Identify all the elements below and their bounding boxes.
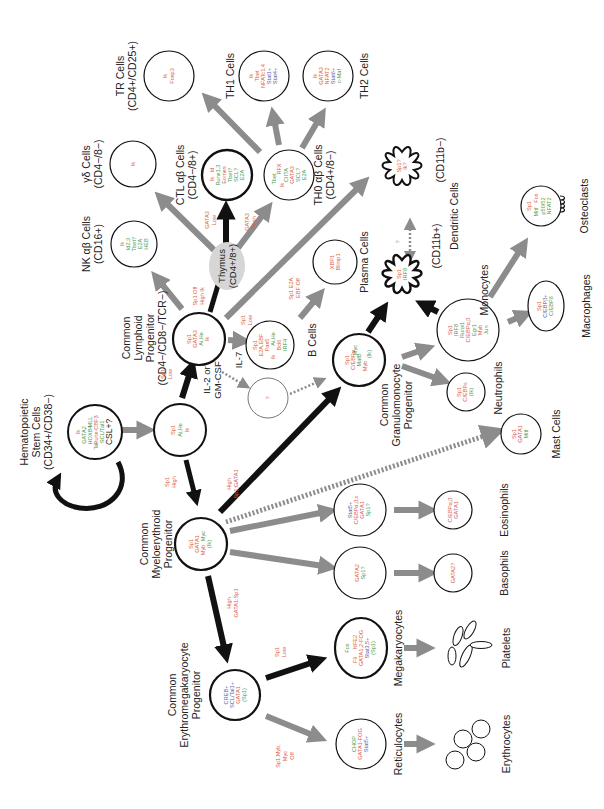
svg-text:Foxp3: Foxp3	[169, 68, 175, 84]
svg-text:(CD16+): (CD16+)	[92, 224, 104, 264]
arrow-cgmp-neutro	[402, 366, 444, 381]
svg-text:GATA1:Sp1: GATA1:Sp1	[233, 588, 239, 617]
label-th0: TH0 αβ Cells (CD4+/8−)	[312, 144, 336, 205]
svg-text:(Sp1): (Sp1)	[241, 688, 247, 702]
cell-neutrophils: Sp1 C/EBPε (Ik)	[447, 373, 485, 411]
cell-megakaryocytes: Fos Fli NFE2 GATA1,2-FOG Stat3,5+ (Sp1)	[335, 618, 387, 678]
cell-unknown: ?	[248, 378, 288, 418]
cond-spi-myb-off: Sp1,Myb, Myc Off	[275, 744, 295, 768]
svg-text:High: High	[251, 216, 257, 228]
svg-text:TR Cells: TR Cells	[114, 56, 126, 96]
svg-text:Megakaryocytes: Megakaryocytes	[392, 610, 404, 686]
svg-text:Plasma Cells: Plasma Cells	[358, 231, 370, 292]
erythrocyte-shapes	[446, 720, 490, 769]
cell-reticulocytes: CHOP GATA1-FOG Stat5+	[336, 719, 386, 769]
cell-eosinophils: C/EBPα,β GATA1	[434, 491, 472, 529]
thymus: Thymus (CD4+/8+)	[209, 242, 245, 290]
svg-text:Myc: Myc	[200, 531, 206, 541]
svg-text:Dendritic Cells: Dendritic Cells	[448, 182, 460, 250]
cell-dc-cd11b-pos: Sp1 IRF8	[383, 255, 422, 293]
cell-osteoclasts: Sp1 Mitf Fos p50/52 NFAT2	[521, 186, 565, 226]
svg-text:Ik: Ik	[279, 183, 285, 188]
svg-text:Lymphoid: Lymphoid	[132, 315, 144, 360]
cell-cmep: Sp1 GATA1 Myb Myc (Ik)	[175, 518, 227, 570]
arrow-mpp-clp	[182, 366, 192, 398]
svg-text:(CD11b−): (CD11b−)	[434, 137, 446, 182]
svg-text:Sp1: Sp1	[170, 425, 176, 435]
cell-th1: Ik Tbet NFATc1,4 Stat1+ Stat4+	[239, 51, 289, 101]
svg-text:Myc: Myc	[352, 345, 358, 355]
cell-clp: Sp1 GATA3 Ai,He Ik	[173, 313, 225, 365]
dc-link-question: ?	[395, 240, 401, 243]
label-platelets: Platelets	[500, 628, 512, 668]
label-eosinophils: Eosinophils	[498, 483, 510, 537]
platelets-shapes	[448, 619, 492, 668]
svg-text:(CD4+/CD25+): (CD4+/CD25+)	[126, 41, 138, 111]
svg-text:NK αβ Cells: NK αβ Cells	[80, 216, 92, 272]
svg-text:Blimp1: Blimp1	[335, 253, 341, 270]
arrow-cgmp-mono	[402, 348, 428, 357]
svg-text:(Ik): (Ik)	[468, 388, 474, 396]
cell-ctl: Ik Id Runx1,3 Eomes Tbet? SCL? E2A	[202, 150, 252, 200]
cytokine-il7: IL-7	[233, 352, 244, 368]
arrow-clp-bcell	[228, 340, 244, 341]
svg-text:Erythrocytes: Erythrocytes	[500, 715, 512, 773]
svg-text:Stem Cells: Stem Cells	[30, 407, 42, 458]
svg-text:Reticulocytes: Reticulocytes	[392, 713, 404, 775]
label-dc-cd11b-pos: (CD11b+)	[430, 223, 442, 268]
label-hsc: Hematopoietic Stem Cells (CD34+/CD38−)	[18, 394, 54, 470]
svg-text:HEB: HEB	[143, 238, 149, 250]
label-dc-cd11b-neg: (CD11b−)	[434, 137, 446, 182]
svg-text:Neutrophils: Neutrophils	[492, 361, 504, 414]
svg-text:Sp1 E2A,: Sp1 E2A,	[288, 276, 294, 300]
label-gd: γδ Cells (CD4−/8−)	[80, 139, 104, 188]
cell-macrophages: Sp1 C/EBPβ+ C/EBPδ	[528, 281, 564, 331]
svg-text:High: High	[171, 476, 177, 488]
hematopoiesis-diagram: Ik GATA2 HOXB4 MLL Tel Runx-CBFβ SCL/Tal…	[0, 0, 604, 809]
cond-spi-e2a-ebf-off: Sp1 E2A, EBF Off	[288, 276, 301, 300]
svg-text:Low: Low	[247, 314, 253, 325]
svg-text:Ik?: Ik?	[402, 162, 408, 169]
svg-text:Stat5+: Stat5+	[363, 736, 369, 752]
label-megakaryocytes: Megakaryocytes	[392, 610, 404, 686]
svg-text:NFAT2: NFAT2	[546, 198, 552, 215]
cell-eos-precursor: Stat5+ C/EBPα,β,ε GATA1 Sp1?	[334, 484, 386, 536]
arrow-cemp-retic	[266, 716, 320, 738]
svg-text:Ik: Ik	[270, 355, 276, 360]
cond-high-gata-spi: High GATA1:Sp1	[226, 588, 239, 617]
svg-text:?: ?	[265, 396, 271, 399]
svg-text:(CD4+/8−): (CD4+/8−)	[324, 150, 336, 199]
svg-text:TH0 αβ Cells: TH0 αβ Cells	[312, 144, 324, 205]
svg-text:(Sp1): (Sp1)	[370, 641, 376, 655]
svg-text:Sp1?: Sp1?	[365, 503, 371, 516]
cell-th0: Tbet RFX Ik CIITA GATA3 SCL? E2A	[264, 150, 314, 200]
svg-text:Sp1: Sp1	[240, 315, 246, 325]
arrow-mono-macro	[508, 314, 526, 322]
arrow-mpp-cmep	[186, 460, 196, 500]
cond-spi-low-b: Sp1 Low	[240, 314, 253, 325]
label-th2: TH2 Cells	[358, 53, 370, 99]
label-plasma-cells: Plasma Cells	[358, 231, 370, 292]
svg-text:GM-CSF: GM-CSF	[212, 361, 223, 399]
cell-bcell: Sp1 E2A,EBF Pax5 Ai,He Ik Bcl6 IRF4	[246, 321, 294, 369]
cell-gd: Ik	[110, 141, 156, 187]
svg-text:Jun: Jun	[483, 325, 489, 334]
svg-text:Myeloerythroid: Myeloerythroid	[150, 509, 162, 578]
svg-text:High: High	[226, 597, 232, 609]
arrow-mono-osteo	[490, 244, 524, 297]
svg-text:?: ?	[395, 240, 401, 243]
svg-text:c-Maf: c-Maf	[336, 69, 342, 83]
self-renewal-arrow	[55, 462, 122, 508]
label-bcell: B Cells	[306, 323, 318, 356]
cell-baso-precursor: GATA2 Sp1?	[334, 547, 386, 599]
svg-text:IL-2 or: IL-2 or	[201, 366, 212, 393]
svg-text:(CD11b+): (CD11b+)	[430, 223, 442, 268]
label-monocytes: Monocytes	[478, 265, 490, 316]
svg-text:Osteoclasts: Osteoclasts	[578, 179, 590, 234]
label-cmep: Common Myeloerythroid Progenitor	[138, 509, 174, 578]
svg-text:(CD4+/8+): (CD4+/8+)	[227, 244, 238, 288]
svg-text:Erythromegakaryocyte: Erythromegakaryocyte	[178, 642, 190, 747]
cell-dc-cd11b-neg: Sp1? Ik?	[383, 147, 422, 185]
svg-text:IRF8: IRF8	[402, 268, 408, 280]
svg-text:Platelets: Platelets	[500, 628, 512, 668]
